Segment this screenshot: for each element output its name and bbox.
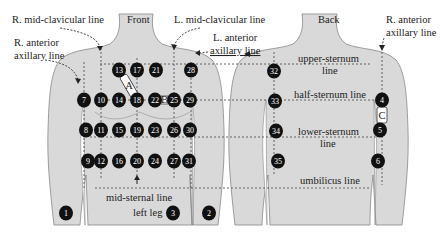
svg-text:C: C: [378, 110, 385, 121]
electrode-24: 24: [148, 154, 162, 169]
electrode-25: 25: [167, 93, 181, 108]
electrode-4: 4: [375, 93, 389, 108]
electrode-22: 22: [148, 93, 162, 108]
label-r-mid-clavicular: R. mid-clavicular line: [12, 14, 104, 25]
svg-text:4: 4: [380, 96, 384, 105]
svg-text:12: 12: [97, 157, 105, 166]
electrode-8: 8: [79, 123, 93, 138]
svg-text:22: 22: [151, 96, 159, 105]
electrode-29: 29: [183, 93, 197, 108]
svg-text:8: 8: [84, 126, 88, 135]
svg-text:33: 33: [271, 97, 279, 106]
label-r-anterior-back-2: axillary line: [386, 27, 437, 38]
svg-text:35: 35: [274, 157, 282, 166]
electrode-10: 10: [94, 93, 108, 108]
label-r-anterior-front-2: axillary line: [14, 50, 65, 61]
svg-text:34: 34: [272, 127, 280, 136]
label-half-sternum: half-sternum line: [294, 89, 366, 100]
electrode-19: 19: [130, 123, 144, 138]
electrode-16: 16: [112, 154, 126, 169]
label-l-anterior-1: L. anterior: [213, 32, 258, 43]
svg-text:20: 20: [133, 157, 141, 166]
patch-b: B: [161, 94, 168, 105]
electrode-17: 17: [130, 63, 144, 78]
electrode-1: 1: [59, 206, 73, 221]
label-back: Back: [318, 14, 340, 25]
electrode-31: 31: [182, 154, 196, 169]
electrode-35: 35: [271, 154, 285, 169]
svg-text:7: 7: [82, 96, 86, 105]
svg-text:30: 30: [186, 126, 194, 135]
electrode-33: 33: [268, 94, 282, 109]
svg-text:B: B: [161, 94, 168, 105]
electrode-28: 28: [184, 63, 198, 78]
label-l-mid-clavicular: L. mid-clavicular line: [174, 14, 266, 25]
label-upper-sternum-1: upper-sternum: [298, 53, 359, 64]
svg-text:26: 26: [170, 126, 178, 135]
svg-text:11: 11: [97, 126, 105, 135]
svg-text:25: 25: [170, 96, 178, 105]
svg-text:31: 31: [185, 157, 193, 166]
svg-text:1: 1: [64, 209, 68, 218]
electrode-23: 23: [148, 123, 162, 138]
label-l-anterior-2: axillary line: [210, 45, 261, 56]
svg-text:5: 5: [378, 126, 382, 135]
electrode-9: 9: [81, 154, 95, 169]
svg-text:32: 32: [270, 67, 278, 76]
electrode-3: 3: [166, 206, 180, 221]
svg-text:18: 18: [133, 96, 141, 105]
svg-text:21: 21: [152, 66, 160, 75]
svg-text:24: 24: [151, 157, 159, 166]
label-left-leg: left leg: [133, 207, 163, 218]
svg-text:A: A: [125, 80, 133, 91]
electrode-14: 14: [112, 93, 126, 108]
electrode-26: 26: [167, 123, 181, 138]
ecg-electrode-diagram: A B C R. mid-clavicular line Front L. mi…: [0, 0, 443, 237]
electrode-7: 7: [77, 93, 91, 108]
electrode-18: 18: [130, 93, 144, 108]
svg-text:6: 6: [376, 157, 380, 166]
label-r-anterior-front-1: R. anterior: [14, 37, 59, 48]
label-lower-sternum-1: lower-sternum: [298, 126, 359, 137]
svg-text:13: 13: [115, 66, 123, 75]
svg-text:2: 2: [207, 209, 211, 218]
svg-text:23: 23: [151, 126, 159, 135]
svg-text:10: 10: [97, 96, 105, 105]
electrode-21: 21: [149, 63, 163, 78]
svg-text:9: 9: [86, 157, 90, 166]
electrode-34: 34: [269, 124, 283, 139]
patch-c: C: [377, 107, 387, 123]
electrode-5: 5: [373, 123, 387, 138]
svg-text:27: 27: [170, 157, 178, 166]
label-upper-sternum-2: line: [322, 65, 338, 76]
electrode-30: 30: [183, 123, 197, 138]
electrode-11: 11: [94, 123, 108, 138]
svg-text:15: 15: [115, 126, 123, 135]
label-lower-sternum-2: line: [320, 138, 336, 149]
svg-text:19: 19: [133, 126, 141, 135]
electrode-2: 2: [202, 206, 216, 221]
electrode-13: 13: [112, 63, 126, 78]
svg-text:16: 16: [115, 157, 123, 166]
svg-text:17: 17: [133, 66, 141, 75]
electrode-32: 32: [267, 64, 281, 79]
diagram-canvas: A B C R. mid-clavicular line Front L. mi…: [0, 0, 443, 237]
electrode-6: 6: [371, 154, 385, 169]
svg-text:3: 3: [171, 209, 175, 218]
svg-text:14: 14: [115, 96, 123, 105]
label-front: Front: [127, 14, 150, 25]
label-umbilicus: umbilicus line: [300, 175, 360, 186]
svg-text:28: 28: [187, 66, 195, 75]
electrode-20: 20: [130, 154, 144, 169]
svg-text:29: 29: [186, 96, 194, 105]
electrode-27: 27: [167, 154, 181, 169]
label-mid-sternal: mid-sternal line: [106, 192, 173, 203]
electrode-12: 12: [94, 154, 108, 169]
label-r-anterior-back-1: R. anterior: [386, 14, 431, 25]
electrode-15: 15: [112, 123, 126, 138]
